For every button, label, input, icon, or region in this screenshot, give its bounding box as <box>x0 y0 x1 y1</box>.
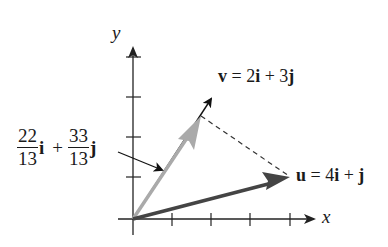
u-coef-i: 4 <box>325 165 334 185</box>
j-symbol: j <box>288 66 294 86</box>
i-symbol: i <box>334 165 339 185</box>
numerator-i: 22 <box>17 126 38 148</box>
y-axis-label: y <box>112 22 120 44</box>
vector-u-label: u = 4i + j <box>296 165 364 186</box>
vector-v-label: v = 2i + 3j <box>218 66 294 87</box>
equals-sign: = <box>311 165 321 185</box>
i-symbol: i <box>255 66 260 86</box>
u-symbol: u <box>296 165 306 185</box>
perpendicular-dashed-line <box>201 116 289 176</box>
plus-sign: + <box>52 137 63 159</box>
j-symbol: j <box>358 165 364 185</box>
fraction-i: 22 13 <box>17 126 38 169</box>
equals-sign: = <box>232 66 242 86</box>
fraction-j: 33 13 <box>68 126 89 169</box>
projection-label-pointer <box>118 152 162 170</box>
v-coef-i: 2 <box>246 66 255 86</box>
v-symbol: v <box>218 66 227 86</box>
y-axis <box>126 48 141 235</box>
x-axis-label: x <box>322 206 330 228</box>
plus-sign: + <box>344 165 354 185</box>
vector-u <box>133 172 290 219</box>
numerator-j: 33 <box>68 126 89 148</box>
plus-sign: + <box>265 66 275 86</box>
j-symbol: j <box>90 137 96 159</box>
v-coef-j: 3 <box>279 66 288 86</box>
denominator-i: 13 <box>18 148 37 169</box>
i-symbol: i <box>39 137 44 159</box>
projection-label: 22 13 i + 33 13 j <box>17 126 99 169</box>
denominator-j: 13 <box>69 148 88 169</box>
